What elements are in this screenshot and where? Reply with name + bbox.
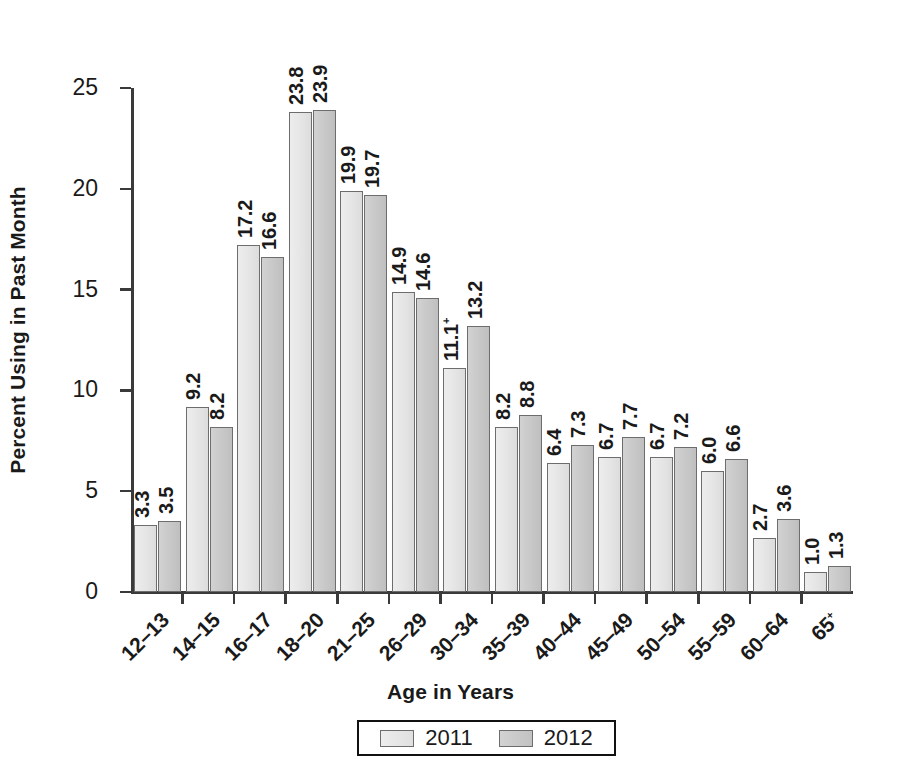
y-tick-20 (120, 188, 131, 191)
bar-2011-55–59: 6.0 (701, 471, 724, 592)
bar-value-label: 6.4 (543, 429, 566, 456)
bar-2011-40–44: 6.4 (547, 463, 570, 592)
bar-2012-26–29: 14.6 (416, 298, 439, 592)
bar-value-label: 7.3 (567, 411, 590, 438)
legend-swatch-2011 (380, 730, 414, 747)
bar-2012-55–59: 6.6 (725, 459, 748, 592)
bar-value-label: 6.7 (646, 423, 669, 450)
bar-value-label: 8.2 (206, 393, 229, 420)
bar-value-label: 19.7 (361, 150, 384, 188)
bar-group: 6.77.2 (650, 88, 697, 592)
bar-2012-14–15: 8.2 (210, 427, 233, 592)
bar-group: 11.1+13.2 (443, 88, 490, 592)
bar-2011-65+: 1.0 (804, 572, 827, 592)
bar-2012-50–54: 7.2 (674, 447, 697, 592)
bar-group: 19.919.7 (340, 88, 387, 592)
bar-value-label: 3.3 (131, 491, 154, 518)
bar-value-label: 11.1+ (440, 318, 463, 361)
x-tick (388, 593, 391, 604)
bar-group: 2.73.6 (753, 88, 800, 592)
x-tick (491, 593, 494, 604)
bar-value-label: 7.7 (619, 403, 642, 430)
bar-group: 6.47.3 (547, 88, 594, 592)
bar-value-label: 17.2 (234, 200, 257, 238)
x-tick (233, 593, 236, 604)
bar-value-label: 6.6 (722, 425, 745, 452)
x-tick (181, 593, 184, 604)
bar-value-label: 2.7 (749, 503, 772, 530)
x-tick (284, 593, 287, 604)
bar-2012-40–44: 7.3 (571, 445, 594, 592)
bar-group: 17.216.6 (237, 88, 284, 592)
legend-swatch-2012 (499, 730, 533, 747)
bar-2011-12–13: 3.3 (134, 525, 157, 592)
bar-2012-30–34: 13.2 (467, 326, 490, 592)
bar-2012-35–39: 8.8 (519, 415, 542, 592)
legend-label: 2011 (425, 725, 472, 751)
bar-2011-60–64: 2.7 (753, 538, 776, 592)
bar-value-label: 1.3 (825, 532, 848, 559)
bar-value-label: 23.8 (285, 67, 308, 105)
bar-2011-35–39: 8.2 (495, 427, 518, 592)
bar-value-label: 7.2 (670, 413, 693, 440)
bar-2011-18–20: 23.8 (289, 112, 312, 592)
bar-group: 3.33.5 (134, 88, 181, 592)
bar-value-label: 8.8 (516, 380, 539, 407)
x-tick (697, 593, 700, 604)
bar-value-label: 23.9 (309, 65, 332, 103)
bar-value-label: 3.6 (773, 485, 796, 512)
x-tick (749, 593, 752, 604)
bar-group: 23.823.9 (289, 88, 336, 592)
bar-value-label: 13.2 (464, 281, 487, 319)
bar-value-label: 1.0 (801, 538, 824, 565)
bar-2011-26–29: 14.9 (392, 292, 415, 592)
bar-value-label: 9.2 (182, 372, 205, 399)
y-tick-label: 5 (8, 477, 120, 504)
bar-2012-21–25: 19.7 (364, 195, 387, 592)
bar-value-label: 6.0 (698, 437, 721, 464)
bar-value-label: 19.9 (337, 146, 360, 184)
bar-2012-60–64: 3.6 (777, 519, 800, 592)
bar-2012-18–20: 23.9 (313, 110, 336, 592)
y-tick-label: 0 (8, 578, 120, 605)
plot-area: 3.33.59.28.217.216.623.823.919.919.714.9… (131, 88, 853, 592)
bar-value-label: 3.5 (155, 487, 178, 514)
legend-label: 2012 (544, 725, 593, 751)
y-tick-25 (120, 87, 131, 90)
y-tick-5 (120, 490, 131, 493)
y-tick-label: 15 (8, 276, 120, 303)
bar-2012-45–49: 7.7 (622, 437, 645, 592)
bar-group: 1.01.3 (804, 88, 851, 592)
y-tick-0 (120, 591, 131, 594)
x-tick (800, 593, 803, 604)
bar-value-label: 16.6 (258, 212, 281, 250)
bar-2011-50–54: 6.7 (650, 457, 673, 592)
legend-item-2011: 2011 (380, 725, 472, 751)
x-tick (542, 593, 545, 604)
chart-legend: 20112012 (357, 720, 616, 756)
x-axis-title: Age in Years (0, 680, 901, 704)
bar-2011-30–34: 11.1+ (443, 368, 466, 592)
bar-group: 8.28.8 (495, 88, 542, 592)
bar-2012-65+: 1.3 (828, 566, 851, 592)
bar-2011-14–15: 9.2 (186, 407, 209, 592)
x-tick (594, 593, 597, 604)
bar-2011-45–49: 6.7 (598, 457, 621, 592)
bar-group: 6.06.6 (701, 88, 748, 592)
bar-value-label: 6.7 (595, 423, 618, 450)
legend-item-2012: 2012 (499, 725, 593, 751)
bar-group: 9.28.2 (186, 88, 233, 592)
bar-2011-16–17: 17.2 (237, 245, 260, 592)
x-tick (336, 593, 339, 604)
bar-value-label: 14.6 (412, 253, 435, 291)
bar-2012-16–17: 16.6 (261, 257, 284, 592)
bar-group: 6.77.7 (598, 88, 645, 592)
bar-2011-21–25: 19.9 (340, 191, 363, 592)
bar-2012-12–13: 3.5 (158, 521, 181, 592)
x-tick (645, 593, 648, 604)
y-tick-label: 20 (8, 175, 120, 202)
bar-value-label: 8.2 (492, 393, 515, 420)
y-tick-15 (120, 288, 131, 291)
bar-chart: Percent Using in Past Month 0510152025 3… (0, 0, 901, 772)
x-tick (439, 593, 442, 604)
